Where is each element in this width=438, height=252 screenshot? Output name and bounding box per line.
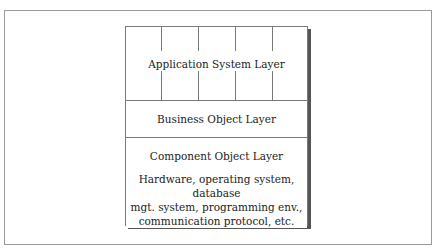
layer-label: Application System Layer [147,58,286,70]
layer-label: Component Object Layer [149,150,284,162]
column-divider [235,27,236,51]
label-line: Hardware, operating system, database [127,172,306,200]
column-divider [272,71,273,100]
column-divider [198,27,199,51]
column-divider [161,27,162,51]
layer-stack: Application System Layer Business Object… [125,26,308,226]
column-divider [235,71,236,100]
infrastructure-layer: Hardware, operating system, database mgt… [126,173,307,225]
label-line: mgt. system, programming env., [127,200,306,214]
layer-label: Business Object Layer [156,113,277,125]
column-divider [272,27,273,51]
application-system-layer: Application System Layer [126,27,307,100]
column-divider [161,71,162,100]
label-line: communication protocol, etc. [127,214,306,228]
component-object-layer: Component Object Layer [126,137,307,173]
layer-label: Hardware, operating system, database mgt… [126,172,307,228]
business-object-layer: Business Object Layer [126,100,307,137]
column-divider [198,71,199,100]
